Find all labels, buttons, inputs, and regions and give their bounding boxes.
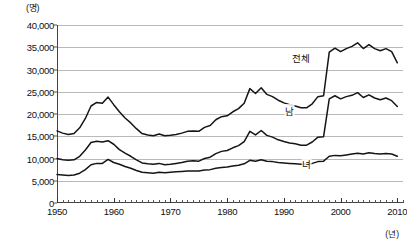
- series-label-전체: 전체: [291, 51, 311, 65]
- series-label-녀: 녀: [301, 157, 312, 171]
- x-axis-minor-tick: [403, 200, 404, 203]
- series-line-전체: [57, 43, 397, 136]
- plot-area: 05,00010,00015,00020,00025,00030,00035,0…: [57, 25, 403, 203]
- x-axis-tick-label: 1970: [160, 206, 180, 217]
- y-axis-tick-label: 35,000: [27, 42, 54, 53]
- series-line-녀: [57, 153, 397, 176]
- y-axis-tick-label: 5,000: [32, 175, 54, 186]
- y-axis-tick-label: 30,000: [27, 64, 54, 75]
- series-paths: [57, 25, 403, 203]
- x-axis-tick-label: 1960: [104, 206, 124, 217]
- x-axis-tick-label: 1950: [47, 206, 67, 217]
- y-axis-unit-label: (명): [26, 1, 39, 14]
- y-axis-tick-label: 20,000: [27, 109, 54, 120]
- x-axis-tick-label: 1980: [217, 206, 237, 217]
- series-line-남: [57, 93, 397, 165]
- y-axis-tick-label: 10,000: [27, 153, 54, 164]
- x-axis-tick-label: 2010: [387, 206, 407, 217]
- x-axis-tick-label: 2000: [331, 206, 351, 217]
- y-axis-tick-label: 25,000: [27, 86, 54, 97]
- x-axis-tick-label: 1990: [274, 206, 294, 217]
- x-axis-unit-label: (년): [385, 227, 399, 239]
- y-axis-tick-label: 40,000: [27, 20, 54, 31]
- series-label-남: 남: [284, 104, 295, 118]
- y-axis-tick-label: 15,000: [27, 131, 54, 142]
